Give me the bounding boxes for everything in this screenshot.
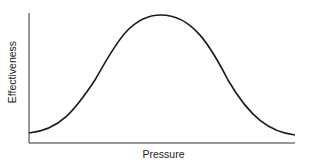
chart-canvas (0, 0, 309, 165)
effectiveness-curve (29, 15, 295, 135)
x-axis-label: Pressure (0, 148, 309, 160)
y-axis-label: Effectiveness (6, 41, 18, 103)
